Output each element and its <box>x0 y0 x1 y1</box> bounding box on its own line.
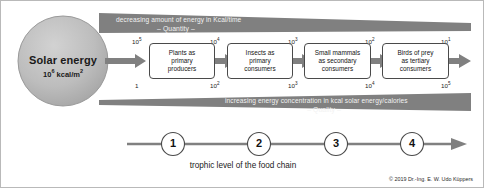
bottom-scale-exponent-2: 2 <box>217 81 220 86</box>
trophic-box-insects: Insects as primary consumers <box>227 43 293 79</box>
trophic-box-small-mammals: Small mammals as secondary consumers <box>304 43 371 79</box>
trophic-box-insects-line2: primary <box>249 57 270 65</box>
trophic-box-plants-line1: Plants as <box>169 49 195 57</box>
trophic-box-small-mammals-line1: Small mammals <box>315 49 360 57</box>
bottom-scale-label-3: 103 <box>288 81 297 89</box>
top-scale-exponent-4: 2 <box>372 37 375 42</box>
trophic-box-insects-line3: consumers <box>244 65 275 73</box>
bottom-scale-exponent-4: 4 <box>372 81 375 86</box>
solar-energy-unit-exponent: 2 <box>80 68 83 74</box>
trophic-box-small-mammals-line2: as secondary <box>318 57 356 65</box>
bottom-scale-label-1: 1 <box>135 81 138 89</box>
trophic-box-plants: Plants as primary producers <box>149 43 215 79</box>
bottom-scale-label-5: 105 <box>441 81 450 89</box>
copyright-credit: © 2019 Dr.-Ing. E. W. Udo Küppers <box>1 176 473 182</box>
bottom-scale-mantissa-5: 10 <box>441 82 448 89</box>
bottom-banner-line1: increasing energy concentration in kcal … <box>225 97 408 104</box>
bottom-scale-mantissa-2: 10 <box>210 82 217 89</box>
food-chain-energy-diagram: Solar energy 106 kcal/m2 decreasing amou… <box>0 0 484 188</box>
top-banner-line2: – Quantity – <box>116 25 236 32</box>
bottom-scale-mantissa-3: 10 <box>288 82 295 89</box>
trophic-level-number-4: 4 <box>400 137 424 149</box>
bottom-scale-label-4: 104 <box>365 81 374 89</box>
bottom-scale-exponent-5: 5 <box>448 81 451 86</box>
trophic-box-insects-line1: Insects as <box>246 49 275 57</box>
trophic-box-plants-line2: primary <box>171 57 192 65</box>
solar-energy-label: Solar energy <box>20 54 106 66</box>
trophic-level-number-2: 2 <box>247 137 271 149</box>
top-scale-exponent-3: 3 <box>295 37 298 42</box>
bottom-banner-line2: – Quality – <box>225 106 423 113</box>
trophic-box-birds-of-prey-line1: Birds of prey <box>398 49 434 57</box>
top-scale-exponent-1: 5 <box>139 37 142 42</box>
top-scale-mantissa-1: 10 <box>132 38 139 45</box>
trophic-box-plants-line3: producers <box>168 65 196 73</box>
solar-energy-unit: kcal/m <box>54 70 79 79</box>
trophic-box-small-mammals-line3: consumers <box>322 65 353 73</box>
bottom-scale-label-2: 102 <box>210 81 219 89</box>
top-scale-label-1: 105 <box>132 37 141 45</box>
bottom-scale-exponent-3: 3 <box>295 81 298 86</box>
bottom-scale-mantissa-1: 1 <box>135 82 138 89</box>
trophic-box-birds-of-prey-line2: as tertiary <box>401 57 429 65</box>
trophic-box-birds-of-prey: Birds of prey as tertiary consumers <box>382 43 449 79</box>
trophic-box-birds-of-prey-line3: consumers <box>400 65 431 73</box>
trophic-level-caption: trophic level of the food chain <box>1 161 484 170</box>
top-banner-line1: decreasing amount of energy in Kcal/time <box>116 16 241 23</box>
trophic-level-number-3: 3 <box>324 137 348 149</box>
solar-energy-value: 106 kcal/m2 <box>20 68 106 79</box>
bottom-scale-mantissa-4: 10 <box>365 82 372 89</box>
diagram-graphics-layer <box>1 1 484 188</box>
top-scale-exponent-5: 1 <box>448 37 451 42</box>
top-scale-exponent-2: 4 <box>217 37 220 42</box>
trophic-level-number-1: 1 <box>161 137 185 149</box>
